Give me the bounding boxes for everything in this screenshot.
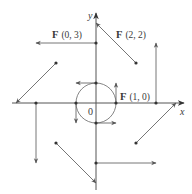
origin-label: 0 [88, 106, 93, 117]
vector-field-diagram: x y 0 F(0, 3) F(2, 2) F(1, 0) [0, 0, 192, 194]
label-f03: F(0, 3) [52, 29, 82, 41]
sample-point-dot [54, 61, 57, 64]
sample-point-dot [114, 101, 117, 104]
sample-point-dot [34, 101, 37, 104]
sample-point-dot [54, 141, 57, 144]
label-f22: F(2, 2) [116, 29, 146, 41]
sample-point-dot [134, 141, 137, 144]
vector-arrow [136, 103, 176, 143]
sample-point-dot [74, 101, 77, 104]
sample-point-dot [94, 81, 97, 84]
x-axis-label: x [179, 106, 185, 117]
vector-arrow [56, 143, 96, 183]
sample-point-dot [134, 61, 137, 64]
vector-field-svg: x y 0 F(0, 3) F(2, 2) F(1, 0) [0, 0, 192, 194]
y-axis-label: y [87, 10, 93, 21]
label-f10: F(1, 0) [120, 91, 150, 103]
sample-point-dot [154, 101, 157, 104]
sample-point-dot [94, 161, 97, 164]
sample-point-dot [94, 41, 97, 44]
vector-arrow [16, 63, 56, 103]
sample-point-dot [94, 121, 97, 124]
